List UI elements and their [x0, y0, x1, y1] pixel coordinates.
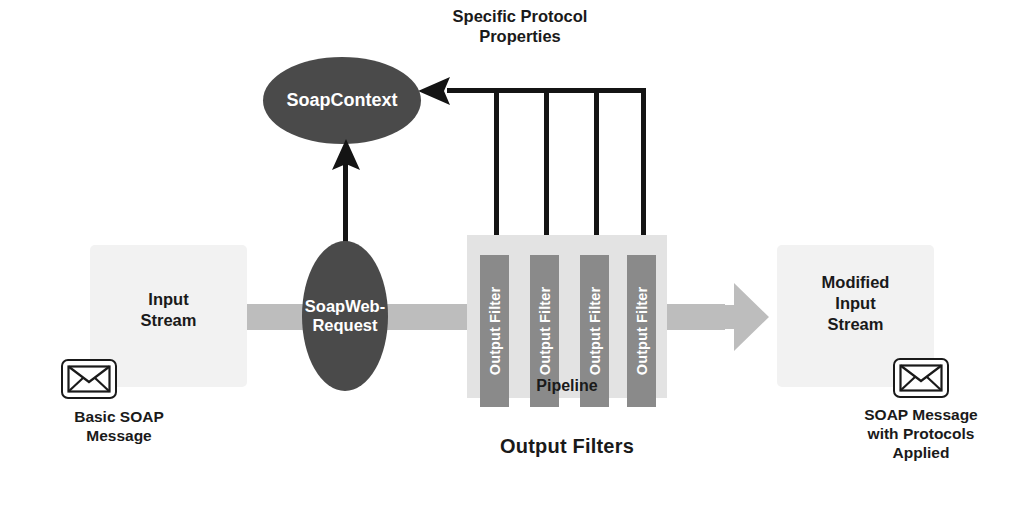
filter-connector-line-3: [594, 88, 599, 240]
up-arrow-icon: [330, 138, 362, 172]
basic-soap-message-caption: Basic SOAP Message: [19, 408, 219, 446]
output-filter-4-label: Output Filter: [634, 287, 650, 375]
node-soap-context[interactable]: SoapContext: [263, 57, 421, 144]
left-arrow-icon: [416, 75, 452, 107]
node-soap-web-request[interactable]: SoapWeb- Request: [302, 241, 388, 391]
specific-protocol-properties-label: Specific Protocol Properties: [395, 6, 645, 46]
output-filters-caption: Output Filters: [457, 434, 677, 458]
soap-message-with-protocols-caption: SOAP Message with Protocols Applied: [841, 406, 1001, 463]
modified-input-stream-label: Modified Input Stream: [777, 272, 934, 335]
envelope-icon-right: [893, 358, 949, 398]
output-filter-2-label: Output Filter: [537, 287, 553, 375]
filter-connector-line-4: [641, 88, 646, 240]
pipeline-label: Pipeline: [467, 377, 667, 395]
node-soap-web-request-label: SoapWeb- Request: [305, 297, 385, 335]
right-arrow-icon: [690, 281, 770, 353]
output-filter-1-label: Output Filter: [487, 287, 503, 375]
output-filter-3-label: Output Filter: [587, 287, 603, 375]
node-soap-context-label: SoapContext: [286, 90, 397, 111]
envelope-icon-left: [61, 359, 117, 399]
filter-connector-line-2: [544, 88, 549, 240]
diagram-canvas: Specific Protocol Properties SoapContext…: [0, 0, 1018, 506]
pipeline-container: Output Filter Output Filter Output Filte…: [467, 235, 667, 398]
filter-connector-line-1: [494, 88, 499, 240]
input-stream-label: Input Stream: [90, 289, 247, 331]
